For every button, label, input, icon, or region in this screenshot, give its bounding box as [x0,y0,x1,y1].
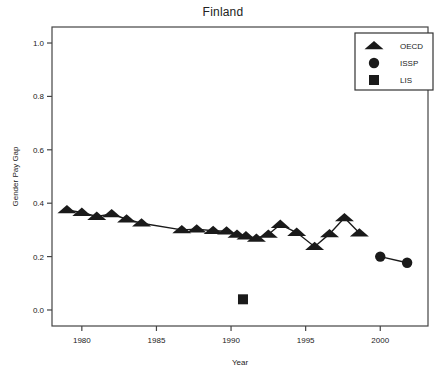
x-axis-tick-label: 1990 [222,336,240,345]
y-axis-tick-label: 0.4 [33,199,45,208]
oecd-triangle-marker [57,205,76,213]
chart-plot-area: 0.00.20.40.60.81.019801985199019952000 O… [0,0,446,381]
issp-circle-marker [375,251,385,261]
oecd-triangle-marker [271,220,290,228]
oecd-triangle-marker [117,214,136,222]
y-axis-tick-label: 0.8 [33,92,45,101]
y-axis-tick-label: 0.0 [33,306,45,315]
y-axis-tick-label: 1.0 [33,39,45,48]
series-issp [375,251,412,268]
axis-labels-group: YearGender Pay Gap [11,146,248,367]
issp-circle-marker [402,258,412,268]
y-axis-tick-label: 0.6 [33,146,45,155]
oecd-triangle-marker [305,242,324,250]
issp-circle-marker [369,58,379,68]
oecd-triangle-marker [320,229,339,237]
oecd-triangle-marker [350,228,369,236]
oecd-triangle-marker [335,213,354,221]
chart-figure: Finland 0.00.20.40.60.81.019801985199019… [0,0,446,381]
lis-square-marker [238,294,248,304]
x-axis-tick-label: 2000 [371,336,389,345]
lis-square-marker [369,75,379,85]
series-lis [238,294,248,304]
x-axis-tick-label: 1985 [148,336,166,345]
x-axis-tick-label: 1980 [73,336,91,345]
chart-legend: OECDISSPLIS [355,33,433,90]
oecd-triangle-marker [102,209,121,217]
y-axis-tick-label: 0.2 [33,253,45,262]
legend-item-label: ISSP [400,59,418,68]
series-oecd [57,205,368,250]
data-series-group [57,205,412,304]
x-axis-title: Year [232,358,249,367]
oecd-triangle-marker [259,229,278,237]
x-axis-tick-label: 1995 [297,336,315,345]
legend-item-label: OECD [400,42,423,51]
legend-item-label: LIS [400,76,412,85]
y-axis-title: Gender Pay Gap [11,146,20,207]
oecd-triangle-marker [187,224,206,232]
